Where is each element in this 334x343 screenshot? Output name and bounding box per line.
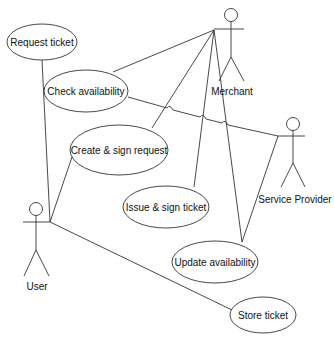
stick-figure-icon — [23, 203, 50, 277]
use-case-label: Request ticket — [10, 37, 74, 48]
use-case-issue-sign-ticket[interactable]: Issue & sign ticket — [123, 186, 209, 228]
use-case-request-ticket[interactable]: Request ticket — [7, 24, 77, 60]
stick-figure-icon — [214, 9, 244, 82]
actor-label: Service Provider — [258, 194, 332, 205]
assoc-merchant-update-availability — [214, 30, 242, 242]
actor-label: User — [26, 281, 48, 292]
use-case-label: Create & sign request — [71, 145, 168, 156]
actor-user[interactable]: User — [23, 203, 50, 293]
use-case-label: Issue & sign ticket — [126, 202, 207, 213]
use-case-diagram: Request ticket Check availability Create… — [0, 0, 334, 343]
stick-figure-icon — [278, 118, 305, 188]
use-case-update-availability[interactable]: Update availability — [172, 241, 258, 283]
assoc-merchant-check-availability — [113, 30, 214, 72]
use-case-label: Store ticket — [238, 310, 288, 321]
assoc-merchant-create-sign-request — [152, 30, 214, 128]
assoc-merchant-issue-sign-ticket — [194, 30, 214, 187]
actor-label: Merchant — [211, 86, 253, 97]
use-case-create-sign-request[interactable]: Create & sign request — [70, 125, 168, 175]
assoc-user-create-sign-request — [50, 157, 72, 222]
use-case-label: Check availability — [47, 86, 124, 97]
assoc-service-provider-update-availability — [242, 136, 278, 242]
use-case-store-ticket[interactable]: Store ticket — [230, 297, 296, 333]
use-case-label: Update availability — [174, 257, 255, 268]
use-case-check-availability[interactable]: Check availability — [44, 70, 128, 112]
